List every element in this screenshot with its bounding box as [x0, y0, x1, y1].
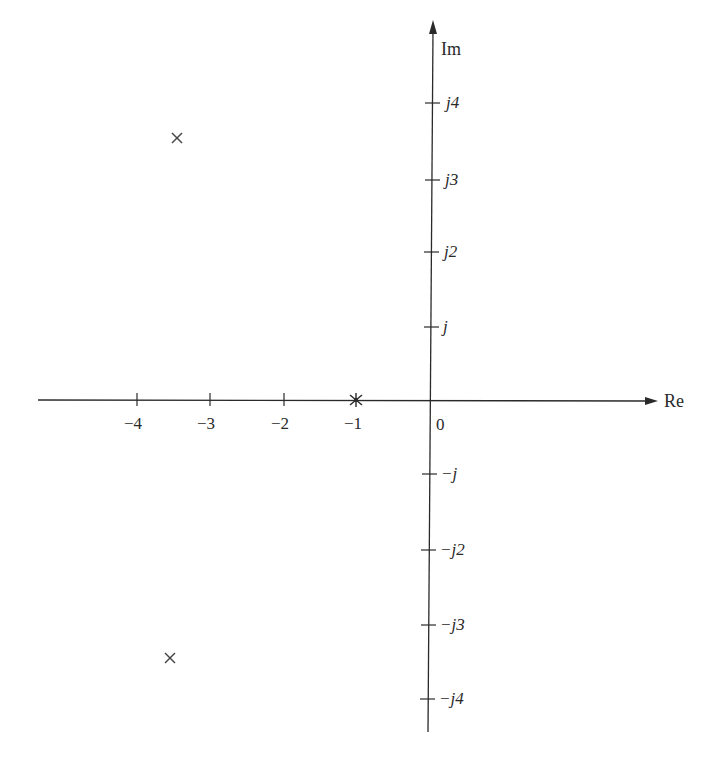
imag-tick-label: −j3 — [440, 616, 465, 633]
imag-axis-arrow-icon — [429, 20, 437, 34]
pole-upper — [172, 133, 182, 143]
imag-tick-label: j — [443, 318, 448, 335]
real-tick-label: −4 — [124, 415, 142, 432]
imag-tick-label: j4 — [446, 94, 459, 111]
pole-lower — [165, 653, 175, 663]
imag-tick-label: −j — [441, 465, 457, 482]
imag-tick-label: −j4 — [439, 690, 464, 707]
real-tick-label: −3 — [197, 415, 215, 432]
real-axis — [38, 397, 658, 405]
imag-axis-label: Im — [441, 40, 461, 58]
real-axis-label: Re — [664, 392, 684, 410]
real-tick-label: −1 — [344, 415, 362, 432]
imag-tick-label: j2 — [444, 243, 457, 260]
s-plane-diagram — [0, 0, 708, 759]
imag-tick-label: j3 — [445, 171, 458, 188]
imag-tick-label: −j2 — [440, 541, 465, 558]
real-ticks — [137, 393, 284, 406]
real-tick-label: −2 — [271, 415, 289, 432]
real-axis-arrow-icon — [645, 397, 658, 405]
origin-label: 0 — [436, 416, 445, 433]
